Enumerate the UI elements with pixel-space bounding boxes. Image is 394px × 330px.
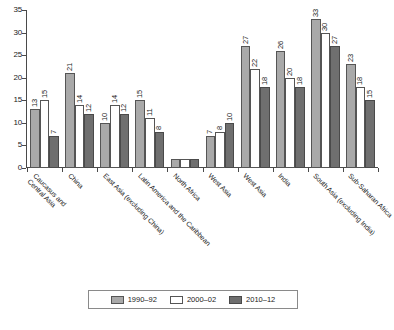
y-tick-label: 25	[14, 51, 23, 59]
bar-value-label: 30	[321, 23, 329, 31]
y-tick-mark	[22, 168, 26, 169]
x-axis-category-labels: Caucasus and Central AsiaChinaEast Asia …	[0, 172, 384, 272]
x-category-label: West Asia	[241, 172, 268, 199]
legend-swatch	[111, 296, 124, 304]
x-category-label: East Asia (excluding China)	[101, 172, 165, 236]
bar-value-label: 18	[356, 77, 364, 85]
bar-value-label: 15	[136, 90, 144, 98]
bar-value-label: 20	[286, 68, 294, 76]
x-category-label: South Asia (excluding India)	[312, 172, 377, 237]
bar: 7	[206, 136, 216, 168]
bar-value-label: 15	[41, 90, 49, 98]
bar: 18	[295, 87, 305, 168]
legend-item[interactable]: 2010–12	[229, 296, 275, 304]
x-category-label: West Asia	[206, 172, 233, 199]
bar-value-label: 13	[31, 99, 39, 107]
bar-value-label: 27	[331, 36, 339, 44]
plot-area: 05101520253035 1315721141210141215118781…	[0, 0, 384, 180]
bar: 8	[155, 132, 165, 168]
bar-value-label: 8	[216, 126, 224, 130]
bar-value-label: 14	[76, 95, 84, 103]
bar: 7	[49, 136, 59, 168]
x-category-label: China	[66, 172, 84, 190]
bar: 18	[260, 87, 270, 168]
bar-value-label: 14	[111, 95, 119, 103]
bar-value-label: 18	[296, 77, 304, 85]
bar: 12	[120, 114, 130, 168]
legend-label: 2010–12	[246, 296, 275, 304]
bar-value-label: 10	[226, 113, 234, 121]
bar: 22	[250, 69, 260, 168]
bar: 33	[311, 19, 321, 168]
bar: 21	[65, 73, 75, 168]
bar: 14	[75, 105, 85, 168]
bar-value-label: 11	[146, 109, 154, 116]
bar: 13	[30, 109, 40, 168]
x-category-label: India	[276, 172, 292, 188]
bar: 27	[241, 46, 251, 168]
bar-value-label: 12	[85, 104, 93, 112]
legend-item[interactable]: 1990–92	[111, 296, 157, 304]
y-axis-tick-labels: 05101520253035	[0, 10, 22, 168]
bar-group: 262018	[276, 10, 305, 168]
bar: 20	[285, 78, 295, 168]
legend-swatch	[170, 296, 183, 304]
bar-value-label: 21	[66, 63, 74, 71]
bar: 27	[330, 46, 340, 168]
bar-value-label: 8	[155, 126, 163, 130]
bar: 8	[215, 132, 225, 168]
bar-value-label: 27	[242, 36, 250, 44]
bar-value-label: 22	[251, 59, 259, 67]
bar-value-label: 10	[101, 113, 109, 121]
bar-value-label: 12	[120, 104, 128, 112]
bar-value-label: 15	[366, 90, 374, 98]
bar: 15	[365, 100, 375, 168]
x-category-label: Latin America and the Caribbean	[136, 172, 212, 248]
bar-group	[171, 10, 200, 168]
bar-value-label: 7	[50, 130, 58, 134]
chart-legend: 1990–922000–022010–12	[88, 290, 298, 309]
legend-label: 2000–02	[187, 296, 216, 304]
y-tick-label: 30	[14, 29, 23, 37]
bar: 10	[225, 123, 235, 168]
bar	[180, 159, 190, 168]
y-tick-label: 10	[14, 119, 23, 127]
bar-group: 13157	[30, 10, 59, 168]
bar-value-label: 33	[312, 9, 320, 17]
bar-value-label: 23	[347, 54, 355, 62]
bar-group: 333027	[311, 10, 340, 168]
bar: 26	[276, 51, 286, 168]
bar-value-label: 18	[261, 77, 269, 85]
legend-label: 1990–92	[128, 296, 157, 304]
y-tick-label: 35	[14, 6, 23, 14]
bar: 12	[84, 114, 94, 168]
y-tick-label: 20	[14, 74, 23, 82]
x-category-label: Caucasus and Central Asia	[25, 172, 67, 214]
bar: 10	[100, 123, 110, 168]
x-category-label: North Africa	[171, 172, 202, 203]
bar: 15	[40, 100, 50, 168]
legend-item[interactable]: 2000–02	[170, 296, 216, 304]
bar-group: 7810	[206, 10, 235, 168]
bar-group: 211412	[65, 10, 94, 168]
y-tick-label: 15	[14, 96, 23, 104]
bars-layer: 1315721141210141215118781027221826201833…	[27, 10, 378, 168]
bar-value-label: 7	[206, 130, 214, 134]
bar: 30	[321, 33, 331, 168]
bar-group: 101412	[100, 10, 129, 168]
bar	[171, 159, 181, 168]
bar-group: 272218	[241, 10, 270, 168]
legend-swatch	[229, 296, 242, 304]
bar: 14	[110, 105, 120, 168]
bar-group: 231815	[346, 10, 375, 168]
bar: 18	[356, 87, 366, 168]
bar-value-label: 26	[277, 41, 285, 49]
bar	[190, 159, 200, 168]
bar: 15	[135, 100, 145, 168]
bar-group: 15118	[135, 10, 164, 168]
